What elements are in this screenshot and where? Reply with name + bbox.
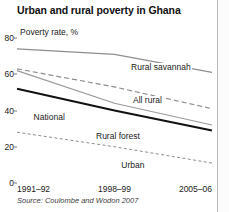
series-label-national: National [33,113,66,122]
x-tick-label: 1991–92 [17,185,50,194]
series-label-rural-forest: Rural forest [95,132,141,141]
figure-title: Urban and rural poverty in Ghana [17,4,212,16]
y-tick-label: 80 [5,34,14,43]
page-edge-rule [217,0,218,212]
y-tick-label: 60 [5,70,14,79]
y-axis-title: Poverty rate, % [20,27,78,37]
figure-source: Source: Coulombe and Wodon 2007 [17,196,138,205]
y-tick-label: 40 [5,106,14,115]
series-label-all-rural: All rural [132,96,163,105]
series-label-urban: Urban [120,161,145,170]
page-gutter [218,0,229,212]
y-tick-label: 0 [9,179,14,188]
y-tick-label: 20 [5,143,14,152]
chart-plot-area: 020406080 Rural savannahAll ruralRural f… [17,38,212,183]
chart-series-lines [17,38,212,183]
figure-page: Urban and rural poverty in Ghana Poverty… [0,0,229,212]
figure-marker [4,6,9,15]
x-tick-label: 1998–99 [98,185,131,194]
series-line-national [17,89,212,131]
series-label-rural-savannah: Rural savannah [130,63,192,72]
x-tick-label: 2005–06 [179,185,212,194]
